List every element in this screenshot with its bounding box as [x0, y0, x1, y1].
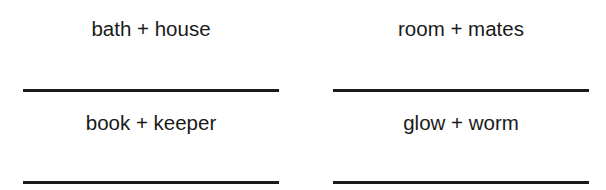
compound-prompt: glow + worm — [333, 111, 589, 135]
compound-item-1: bath + house — [23, 0, 279, 95]
compound-prompt: bath + house — [23, 17, 279, 41]
answer-blank-line[interactable] — [333, 181, 589, 184]
compound-item-3: book + keeper — [23, 92, 279, 187]
compound-item-4: glow + worm — [333, 92, 589, 187]
answer-blank-line[interactable] — [23, 181, 279, 184]
compound-item-2: room + mates — [333, 0, 589, 95]
compound-prompt: book + keeper — [23, 111, 279, 135]
compound-prompt: room + mates — [333, 17, 589, 41]
